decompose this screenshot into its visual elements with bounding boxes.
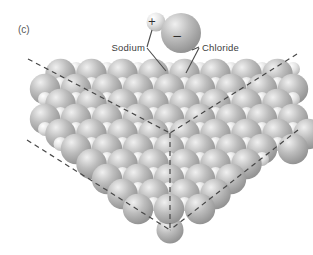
chloride-ion <box>154 194 184 224</box>
cation-charge-symbol: + <box>148 16 156 27</box>
anion-charge-symbol: − <box>172 29 182 43</box>
figure-text-layer: (c) + − Sodium Chloride <box>18 16 239 53</box>
panel-label: (c) <box>18 24 30 35</box>
chloride-label: Chloride <box>202 42 239 53</box>
sodium-label: Sodium <box>112 42 145 53</box>
sodium-to-ion-pointer-line <box>147 30 152 47</box>
crystal-lattice <box>27 13 313 244</box>
nacl-crystal-figure: (c) + − Sodium Chloride <box>0 0 313 255</box>
chloride-ion <box>278 134 308 164</box>
figure-panel: (c) + − Sodium Chloride <box>0 0 313 255</box>
chloride-ion <box>123 194 153 224</box>
